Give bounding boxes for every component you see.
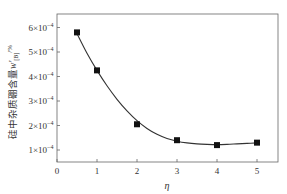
data-point-marker [94, 67, 100, 73]
data-point-marker [74, 29, 80, 35]
x-tick-label: 2 [135, 166, 140, 176]
x-tick-label: 0 [55, 166, 60, 176]
x-tick-label: 5 [255, 166, 260, 176]
y-tick-label: 6×10 [28, 23, 47, 33]
y-tick-label: 4×10 [28, 72, 47, 82]
y-axis-ticks: 1×10−42×10−43×10−44×10−45×10−46×10−4 [28, 22, 60, 156]
x-tick-label: 1 [95, 166, 100, 176]
x-tick-label: 3 [175, 166, 180, 176]
plot-frame [57, 14, 278, 162]
y-tick-label: 5×10 [28, 47, 47, 57]
data-point-marker [254, 140, 260, 146]
data-point-marker [174, 137, 180, 143]
fit-curve [77, 34, 257, 145]
y-tick-label: 3×10 [28, 96, 47, 106]
data-point-marker [214, 142, 220, 148]
boron-content-chart: 012345 1×10−42×10−43×10−44×10−45×10−46×1… [0, 0, 287, 194]
y-tick-exponent: −4 [47, 46, 53, 52]
y-tick-exponent: −4 [47, 120, 53, 126]
y-tick-exponent: −4 [47, 71, 53, 77]
y-tick-exponent: −4 [47, 22, 53, 28]
y-tick-exponent: −4 [47, 95, 53, 101]
data-markers [74, 29, 260, 148]
y-axis-title: 硅中杂质硼含量w'[B]/% [6, 45, 20, 139]
y-tick-label: 2×10 [28, 121, 47, 131]
svg-text:硅中杂质硼含量w'[B]/%: 硅中杂质硼含量w'[B]/% [6, 45, 20, 139]
data-point-marker [134, 121, 140, 127]
x-axis-title: η [165, 180, 170, 191]
x-tick-label: 4 [215, 166, 220, 176]
y-tick-exponent: −4 [47, 144, 53, 150]
y-tick-label: 1×10 [28, 145, 47, 155]
x-axis-ticks: 012345 [55, 159, 260, 176]
